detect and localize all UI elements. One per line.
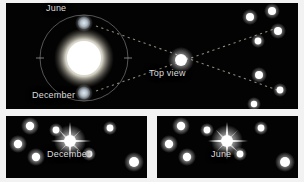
top-view-panel (6, 3, 298, 109)
december-view-canvas (6, 116, 147, 178)
june-view-panel (157, 116, 298, 178)
target-star (175, 54, 187, 66)
december-view-panel (6, 116, 147, 178)
parallax-figure: June December Top view (0, 0, 304, 182)
june-view-canvas (157, 116, 298, 178)
earth-december (78, 87, 90, 99)
earth-june (78, 17, 90, 29)
sun-core (67, 41, 101, 75)
top-view-canvas (6, 3, 298, 109)
